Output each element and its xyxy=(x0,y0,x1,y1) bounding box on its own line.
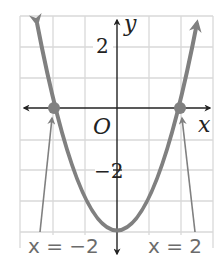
point-x-2 xyxy=(174,102,186,114)
y-axis-label: y xyxy=(123,11,137,36)
annot-pointer-left xyxy=(40,118,52,232)
annotation-x-2: x = 2 xyxy=(148,234,202,257)
origin-label: O xyxy=(93,114,111,139)
parabola-graph: 2 −2 O x y x = −2 x = 2 xyxy=(0,0,220,257)
point-x-neg2 xyxy=(48,102,60,114)
annotation-x-neg2: x = −2 xyxy=(28,234,99,257)
x-axis-label: x xyxy=(198,112,211,137)
y-tick-label-neg2: −2 xyxy=(94,159,123,183)
annot-pointer-right xyxy=(182,118,195,232)
y-tick-label-2: 2 xyxy=(96,34,109,58)
